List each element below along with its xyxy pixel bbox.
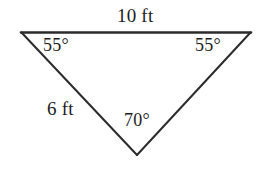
angle-label-bottom: 70° [124,111,150,129]
angle-label-right: 55° [195,36,221,54]
geometry-figure: 10 ft 55° 55° 6 ft 70° [0,0,267,169]
triangle-side-right [137,33,251,156]
side-length-label-left: 6 ft [47,99,74,118]
side-length-label-top: 10 ft [117,6,153,25]
angle-label-left: 55° [43,36,69,54]
triangle-side-left [22,33,138,156]
